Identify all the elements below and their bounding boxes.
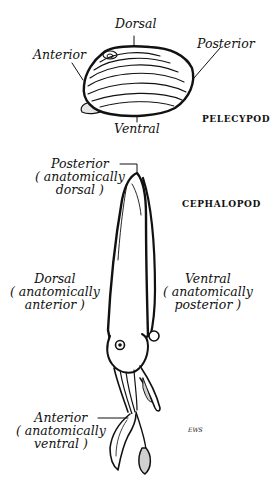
squid-drawing — [98, 164, 160, 474]
label-text: Ventral — [114, 122, 160, 135]
diagram-canvas — [0, 0, 277, 477]
label-sub: anterior ) — [10, 298, 100, 311]
pelecypod-label-ventral: Ventral — [114, 122, 160, 135]
label-text: Anterior — [33, 48, 86, 61]
pelecypod-label-posterior: Posterior — [197, 37, 255, 50]
cephalopod-label-dorsal: Dorsal ( anatomically anterior ) — [10, 272, 100, 311]
label-sub: dorsal ) — [35, 183, 125, 196]
cephalopod-title: CEPHALOPOD — [182, 199, 261, 209]
pelecypod-label-dorsal: Dorsal — [115, 17, 156, 30]
label-text: Posterior — [197, 37, 255, 50]
pelecypod-title: PELECYPOD — [202, 114, 270, 124]
cephalopod-label-posterior: Posterior ( anatomically dorsal ) — [35, 157, 125, 196]
artist-signature: EWS — [188, 426, 203, 433]
label-sub: ventral ) — [16, 437, 106, 450]
cephalopod-label-ventral: Ventral ( anatomically posterior ) — [163, 272, 253, 311]
cephalopod-label-anterior: Anterior ( anatomically ventral ) — [16, 411, 106, 450]
label-text: Dorsal — [115, 17, 156, 30]
pelecypod-label-anterior: Anterior — [33, 48, 86, 61]
label-sub: posterior ) — [163, 298, 253, 311]
